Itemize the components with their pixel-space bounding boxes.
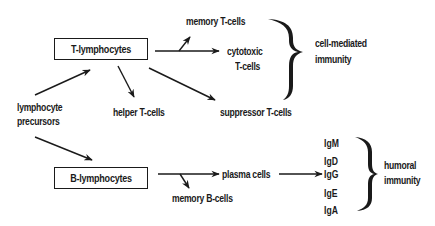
precursors-label-line2: precursors xyxy=(17,115,60,127)
cytotoxic-label-line1: cytotoxic xyxy=(227,45,263,57)
t-lymphocytes-label: T-lymphocytes xyxy=(63,43,138,55)
t-lymphocytes-node: T-lymphocytes xyxy=(54,38,148,60)
antibody-igd: IgD xyxy=(324,155,338,167)
brace-humoral-icon xyxy=(355,137,378,211)
arrow-t-to-helper xyxy=(118,66,134,97)
b-lymphocytes-node: B-lymphocytes xyxy=(54,167,148,189)
humoral-label-line2: immunity xyxy=(384,174,420,186)
memory-b-cells-label: memory B-cells xyxy=(172,192,233,204)
b-lymphocytes-label: B-lymphocytes xyxy=(63,172,138,184)
antibody-list: IgM IgD IgG IgE IgA xyxy=(324,137,354,217)
arrow-t-to-suppressor xyxy=(149,68,215,100)
cytotoxic-label-line2: T-cells xyxy=(235,60,260,72)
memory-t-cells-label: memory T-cells xyxy=(186,15,245,27)
antibody-iga: IgA xyxy=(324,204,338,216)
arrow-precursors-to-t xyxy=(35,70,90,95)
precursors-label-line1: lymphocyte xyxy=(17,101,62,113)
helper-t-cells-label: helper T-cells xyxy=(113,106,165,118)
arrow-to-memory-t xyxy=(179,37,190,51)
lymphocyte-diagram: T-lymphocytes B-lymphocytes lymphocyte p… xyxy=(0,0,435,226)
arrow-precursors-to-b xyxy=(35,137,92,160)
suppressor-t-cells-label: suppressor T-cells xyxy=(220,106,292,118)
antibody-ige: IgE xyxy=(324,187,337,199)
arrow-to-memory-b xyxy=(180,174,189,188)
brace-cell-mediated-icon xyxy=(268,19,303,100)
cell-mediated-label-line1: cell-mediated xyxy=(315,37,367,49)
humoral-label-line1: humoral xyxy=(384,159,416,171)
antibody-igm: IgM xyxy=(324,137,339,149)
cell-mediated-label-line2: immunity xyxy=(315,53,351,65)
plasma-cells-label: plasma cells xyxy=(222,168,270,180)
antibody-igg: IgG xyxy=(324,168,338,180)
